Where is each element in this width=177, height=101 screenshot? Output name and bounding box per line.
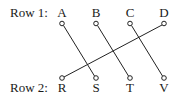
row1-item-c: C: [126, 5, 135, 20]
row1-item-a: A: [57, 5, 67, 20]
row1-item-b: B: [92, 5, 101, 20]
connection-a-s: [64, 26, 95, 77]
row2-item-v: V: [159, 80, 169, 95]
row1-label: Row 1:: [10, 5, 48, 20]
row2-label: Row 2:: [10, 80, 48, 95]
node-v-icon: [162, 76, 167, 81]
node-c-icon: [128, 21, 133, 26]
node-d-icon: [162, 21, 167, 26]
row2-item-t: T: [126, 80, 134, 95]
node-r-icon: [60, 76, 65, 81]
row2-item-s: S: [92, 80, 99, 95]
node-s-icon: [94, 76, 99, 81]
matching-diagram: Row 1: Row 2: A B C D R S T V: [0, 0, 177, 101]
row1-item-d: D: [159, 5, 168, 20]
row2-item-r: R: [58, 80, 67, 95]
node-t-icon: [128, 76, 133, 81]
node-a-icon: [60, 21, 65, 26]
node-b-icon: [94, 21, 99, 26]
